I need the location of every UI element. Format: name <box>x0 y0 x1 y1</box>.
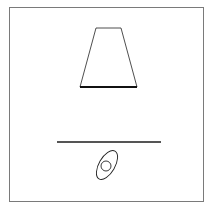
tilted-ellipse <box>92 147 122 183</box>
inner-circle <box>101 161 111 171</box>
light-cone-trapezoid <box>80 28 137 87</box>
diagram-canvas <box>0 0 213 209</box>
